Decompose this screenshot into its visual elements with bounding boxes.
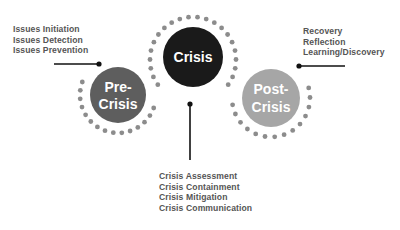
- ring-dot: [95, 125, 100, 130]
- ring-dot: [303, 114, 308, 119]
- ring-dot: [128, 129, 133, 134]
- ring-dot: [119, 130, 124, 135]
- ring-dot: [169, 20, 174, 25]
- ring-dot: [204, 17, 209, 22]
- ring-dot: [226, 82, 231, 87]
- activity-item: Learning/Discovery: [303, 47, 385, 58]
- ring-dot: [234, 57, 239, 62]
- ring-dot: [151, 75, 156, 80]
- ring-dot: [238, 120, 243, 125]
- ring-dot: [111, 130, 116, 135]
- ring-dot: [230, 75, 235, 80]
- post-crisis-activities: Recovery Reflection Learning/Discovery: [303, 26, 385, 58]
- pre-crisis-node: Pre- Crisis: [90, 67, 146, 123]
- post-crisis-connector: [296, 63, 345, 68]
- ring-dot: [307, 105, 312, 110]
- ring-dot: [78, 88, 83, 93]
- activity-item: Issues Detection: [13, 35, 88, 46]
- pre-crisis-circle: [90, 67, 146, 123]
- ring-dot: [83, 112, 88, 117]
- ring-dot: [306, 86, 311, 91]
- crisis-activities: Crisis Assessment Crisis Containment Cri…: [159, 171, 252, 213]
- connector-dot: [96, 61, 101, 66]
- ring-dot: [177, 17, 182, 22]
- connector-dot: [296, 63, 301, 68]
- ring-dot: [88, 119, 93, 124]
- activity-item: Crisis Mitigation: [159, 192, 252, 203]
- ring-dot: [230, 40, 235, 45]
- activity-item: Recovery: [303, 26, 385, 37]
- ring-dot: [263, 134, 268, 139]
- ring-dot: [298, 122, 303, 127]
- ring-dot: [219, 26, 224, 31]
- ring-dot: [148, 66, 153, 71]
- pre-crisis-label-line2: Crisis: [99, 96, 138, 112]
- post-crisis-label-line2: Crisis: [252, 99, 291, 115]
- ring-dot: [135, 125, 140, 130]
- ring-dot: [272, 134, 277, 139]
- ring-dot: [290, 128, 295, 133]
- post-crisis-circle: [242, 69, 300, 127]
- pre-crisis-connector: [54, 61, 102, 66]
- ring-dot: [230, 102, 235, 107]
- ring-dot: [156, 32, 161, 37]
- post-crisis-node: Post- Crisis: [242, 69, 300, 127]
- activity-item: Issues Initiation: [13, 24, 88, 35]
- activity-item: Crisis Containment: [159, 182, 252, 193]
- activity-item: Crisis Communication: [159, 203, 252, 214]
- ring-dot: [148, 57, 153, 62]
- activity-item: Reflection: [303, 37, 385, 48]
- ring-dot: [233, 66, 238, 71]
- ring-dot: [253, 132, 258, 137]
- ring-dot: [162, 26, 167, 31]
- ring-dot: [142, 120, 147, 125]
- ring-dot: [152, 40, 157, 45]
- ring-dot: [233, 48, 238, 53]
- pre-crisis-activities: Issues Initiation Issues Detection Issue…: [13, 24, 88, 56]
- ring-dot: [148, 113, 153, 118]
- crisis-label: Crisis: [174, 49, 213, 65]
- ring-dot: [151, 106, 156, 111]
- ring-dot: [80, 80, 85, 85]
- activity-item: Crisis Assessment: [159, 171, 252, 182]
- ring-dot: [78, 96, 83, 101]
- ring-dot: [282, 132, 287, 137]
- ring-dot: [245, 127, 250, 132]
- ring-dot: [149, 48, 154, 53]
- connector-dot: [187, 101, 192, 106]
- post-crisis-label-line1: Post-: [254, 81, 289, 97]
- crisis-node: Crisis: [163, 27, 223, 87]
- ring-dot: [186, 15, 191, 20]
- ring-dot: [103, 128, 108, 133]
- ring-dot: [195, 15, 200, 20]
- activity-item: Issues Prevention: [13, 45, 88, 56]
- crisis-connector: [187, 101, 192, 160]
- ring-dot: [80, 105, 85, 110]
- ring-dot: [225, 32, 230, 37]
- ring-dot: [308, 95, 313, 100]
- ring-dot: [212, 20, 217, 25]
- pre-crisis-label-line1: Pre-: [104, 79, 132, 95]
- ring-dot: [155, 82, 160, 87]
- ring-dot: [233, 112, 238, 117]
